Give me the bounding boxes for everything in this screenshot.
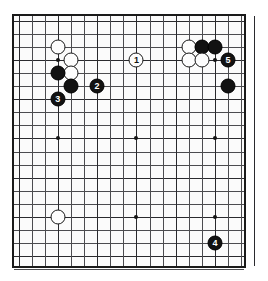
go-board-diagram: 32154: [0, 0, 268, 281]
grid-line-horizontal: [14, 204, 244, 205]
grid-line-horizontal: [14, 112, 244, 113]
grid-line-horizontal: [14, 256, 244, 257]
numbered-stone-black[interactable]: 5: [221, 52, 236, 67]
stone-white[interactable]: [50, 39, 65, 54]
star-point: [134, 215, 138, 219]
numbered-stone-black[interactable]: 2: [90, 79, 105, 94]
stone-black[interactable]: [208, 39, 223, 54]
grid-line-horizontal: [14, 269, 244, 270]
stone-move-number: 5: [226, 55, 231, 64]
grid-line-horizontal: [14, 230, 244, 231]
grid-line-horizontal: [14, 99, 244, 100]
grid-line-vertical: [32, 16, 33, 266]
numbered-stone-white[interactable]: 1: [129, 52, 144, 67]
grid-line-vertical: [176, 16, 177, 266]
grid-line-horizontal: [14, 217, 244, 218]
grid-line-horizontal: [14, 34, 244, 35]
stone-white[interactable]: [194, 52, 209, 67]
grid-line-horizontal: [14, 73, 244, 74]
numbered-stone-black[interactable]: 3: [50, 92, 65, 107]
stone-move-number: 4: [212, 239, 217, 248]
star-point: [213, 215, 217, 219]
stone-black[interactable]: [50, 65, 65, 80]
grid-line-vertical: [110, 16, 111, 266]
star-point: [213, 58, 217, 62]
stone-black[interactable]: [221, 79, 236, 94]
grid-line-horizontal: [14, 152, 244, 153]
grid-line-vertical: [123, 16, 124, 266]
grid-line-horizontal: [14, 191, 244, 192]
grid-line-vertical: [19, 16, 20, 266]
grid-line-horizontal: [14, 178, 244, 179]
grid-line-vertical: [84, 16, 85, 266]
grid-line-vertical: [45, 16, 46, 266]
stone-move-number: 1: [134, 55, 139, 64]
grid-line-horizontal: [14, 138, 244, 139]
stone-black[interactable]: [63, 79, 78, 94]
star-point: [56, 136, 60, 140]
stone-move-number: 3: [55, 95, 60, 104]
grid-line-vertical: [163, 16, 164, 266]
star-point: [134, 136, 138, 140]
grid-line-vertical: [241, 16, 242, 266]
grid-line-horizontal: [14, 21, 244, 22]
grid-line-vertical: [254, 16, 255, 266]
numbered-stone-black[interactable]: 4: [208, 236, 223, 251]
star-point: [56, 58, 60, 62]
grid-line-horizontal: [14, 86, 244, 87]
stone-white[interactable]: [50, 210, 65, 225]
star-point: [213, 136, 217, 140]
grid-line-horizontal: [14, 165, 244, 166]
grid-line-vertical: [150, 16, 151, 266]
board-frame: 32154: [12, 14, 246, 268]
grid-line-horizontal: [14, 125, 244, 126]
grid-line-vertical: [97, 16, 98, 266]
stone-move-number: 2: [95, 82, 100, 91]
